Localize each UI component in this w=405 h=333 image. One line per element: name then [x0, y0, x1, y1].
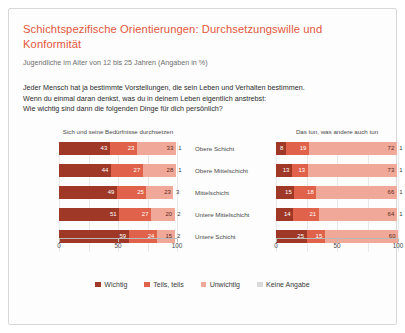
bar-segment[interactable]: 18 — [294, 186, 316, 199]
question-line-1: Jeder Mensch hat ja bestimmte Vorstellun… — [23, 83, 382, 94]
bar-row[interactable]: 1313731Obere Mittelschicht — [276, 164, 398, 177]
bar-segment[interactable]: 15 — [276, 186, 294, 199]
axis-tick-label: 50 — [333, 242, 340, 249]
page-title: Schichtspezifische Orientierungen: Durch… — [23, 22, 353, 51]
bar-value-label: 73 — [388, 167, 397, 173]
bar-segment[interactable]: 49 — [59, 186, 117, 199]
bar-rows-right: 819721Obere Schicht1313731Obere Mittelsc… — [276, 142, 398, 252]
bar-segment[interactable]: 13 — [292, 164, 308, 177]
bar-row[interactable]: 4925233Mittelschicht — [59, 186, 177, 199]
bar-value-label: 1 — [397, 145, 403, 151]
chart-title-right: Das tun, was andere auch tun — [296, 128, 378, 135]
bar-segment[interactable]: 28 — [143, 164, 176, 177]
screenshot-root: Schichtspezifische Orientierungen: Durch… — [0, 0, 405, 333]
bar-value-label: 20 — [165, 211, 174, 217]
axis-tick-label: 0 — [274, 242, 278, 249]
bar-value-label: 1 — [397, 167, 403, 173]
bar-value-label: 43 — [101, 145, 110, 151]
bar-segment[interactable]: 1 — [176, 164, 177, 177]
bar-value-label: 23 — [164, 189, 173, 195]
axis-tick-label: 100 — [393, 242, 404, 249]
bar-value-label: 64 — [388, 211, 397, 217]
bar-segment[interactable]: 23 — [110, 142, 137, 155]
chart-legend: WichtigTeils, teilsUnwichtigKeine Angabe — [9, 281, 396, 288]
bar-segment[interactable]: 72 — [309, 142, 397, 155]
plot-area-right: 819721Obere Schicht1313731Obere Mittelsc… — [276, 142, 398, 252]
bar-row[interactable]: 5127202Untere Mittelschicht — [59, 208, 177, 221]
chart-title-left: Sich und seine Bedürfnisse durchsetzen — [63, 128, 173, 135]
bar-value-label: 18 — [307, 189, 316, 195]
axis-tick-label: 50 — [114, 242, 121, 249]
legend-label: Unwichtig — [210, 281, 240, 288]
bar-row[interactable]: 1421641Untere Mittelschicht — [276, 208, 398, 221]
bar-segment[interactable]: 20 — [151, 208, 175, 221]
bar-value-label: 14 — [284, 211, 293, 217]
category-label: Obere Schicht — [195, 142, 234, 155]
x-axis-right: 050100 — [276, 238, 398, 251]
bar-value-label: 1 — [397, 211, 403, 217]
legend-label: Teils, teils — [153, 281, 183, 288]
bar-segment[interactable]: 21 — [293, 208, 319, 221]
bar-value-label: 51 — [110, 211, 119, 217]
bar-segment[interactable]: 13 — [276, 164, 292, 177]
bar-segment[interactable]: 1 — [176, 142, 177, 155]
bar-value-label: 19 — [300, 145, 309, 151]
bar-segment[interactable]: 19 — [286, 142, 309, 155]
bar-value-label: 23 — [128, 145, 137, 151]
legend-item[interactable]: Keine Angabe — [257, 281, 310, 288]
bar-segment[interactable]: 64 — [319, 208, 397, 221]
bar-segment[interactable]: 43 — [59, 142, 110, 155]
bar-value-label: 44 — [102, 167, 111, 173]
charts-container: Sich und seine Bedürfnisse durchsetzen 4… — [23, 128, 382, 266]
bar-segment[interactable]: 51 — [59, 208, 119, 221]
legend-swatch-icon — [144, 282, 150, 288]
question-line-2: Wenn du einmal daran denkst, was du in d… — [23, 94, 382, 105]
bar-segment[interactable]: 23 — [146, 186, 173, 199]
bar-segment[interactable]: 27 — [111, 164, 143, 177]
bar-segment[interactable]: 44 — [59, 164, 111, 177]
bar-value-label: 13 — [283, 167, 292, 173]
bar-segment[interactable]: 25 — [117, 186, 147, 199]
survey-question: Jeder Mensch hat ja bestimmte Vorstellun… — [23, 83, 382, 115]
bar-value-label: 1 — [397, 189, 403, 195]
bar-segment[interactable]: 2 — [175, 208, 177, 221]
axis-tick-label: 100 — [172, 242, 183, 249]
bar-segment[interactable]: 1 — [397, 208, 398, 221]
bar-row[interactable]: 4323331Obere Schicht — [59, 142, 177, 155]
category-label: Untere Mittelschicht — [195, 208, 249, 221]
bar-value-label: 2 — [175, 211, 181, 217]
gridline — [398, 142, 399, 252]
bar-segment[interactable]: 33 — [137, 142, 176, 155]
bar-segment[interactable]: 1 — [397, 186, 398, 199]
bar-value-label: 27 — [134, 167, 143, 173]
legend-item[interactable]: Wichtig — [95, 281, 127, 288]
category-label: Untere Schicht — [195, 230, 236, 243]
bar-segment[interactable]: 1 — [397, 142, 398, 155]
legend-label: Wichtig — [104, 281, 127, 288]
bar-segment[interactable]: 73 — [308, 164, 397, 177]
bar-segment[interactable]: 1 — [397, 164, 398, 177]
legend-item[interactable]: Teils, teils — [144, 281, 183, 288]
bar-segment[interactable]: 3 — [173, 186, 177, 199]
legend-item[interactable]: Unwichtig — [201, 281, 240, 288]
legend-label: Keine Angabe — [266, 281, 310, 288]
question-line-3: Wie wichtig sind dann die folgenden Ding… — [23, 104, 382, 115]
bar-value-label: 49 — [108, 189, 117, 195]
category-label: Obere Mittelschicht — [195, 164, 248, 177]
bar-value-label: 66 — [388, 189, 397, 195]
axis-tick-label: 0 — [57, 242, 61, 249]
bar-row[interactable]: 819721Obere Schicht — [276, 142, 398, 155]
chart-card: Schichtspezifische Orientierungen: Durch… — [8, 8, 397, 325]
bar-segment[interactable]: 27 — [119, 208, 151, 221]
bar-value-label: 27 — [142, 211, 151, 217]
bar-row[interactable]: 4427281Obere Mittelschicht — [59, 164, 177, 177]
bar-value-label: 13 — [299, 167, 308, 173]
bar-segment[interactable]: 66 — [316, 186, 397, 199]
bar-value-label: 1 — [176, 145, 182, 151]
bar-segment[interactable]: 14 — [276, 208, 293, 221]
bar-row[interactable]: 1518661Mittelschicht — [276, 186, 398, 199]
bar-segment[interactable]: 8 — [276, 142, 286, 155]
plot-area-left: 4323331Obere Schicht4427281Obere Mittels… — [59, 142, 177, 252]
page-subtitle: Jugendliche im Alter von 12 bis 25 Jahre… — [23, 58, 382, 68]
bar-value-label: 3 — [173, 189, 179, 195]
